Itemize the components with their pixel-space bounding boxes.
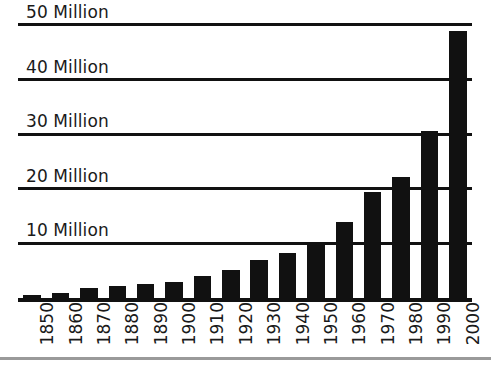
x-axis-tick-label: 1970 [380, 302, 397, 354]
x-axis-tick-label: 1850 [39, 302, 56, 354]
bar [194, 276, 212, 298]
y-axis-tick-label: 30 Million [26, 112, 109, 131]
x-axis-tick-label: 1950 [323, 302, 340, 354]
bar [279, 253, 297, 298]
x-axis-tick-labels: 1850186018701880189019001910192019301940… [18, 302, 472, 354]
plot-area: 10 Million20 Million30 Million40 Million… [18, 14, 472, 302]
y-axis-tick-label: 20 Million [26, 167, 109, 186]
y-axis-tick-label: 10 Million [26, 221, 109, 240]
x-axis-tick-label: 1930 [266, 302, 283, 354]
y-axis-tick-label: 40 Million [26, 58, 109, 77]
bar [109, 286, 127, 298]
bar [250, 260, 268, 298]
bar [307, 243, 325, 298]
bar [336, 222, 354, 298]
y-axis-tick-label: 50 Million [26, 3, 109, 22]
x-axis-tick-label: 1860 [68, 302, 85, 354]
x-axis-tick-label: 1920 [238, 302, 255, 354]
bar [222, 270, 240, 298]
x-axis-tick-label: 1990 [436, 302, 453, 354]
x-axis-tick-label: 2000 [465, 302, 482, 354]
bar [137, 284, 155, 298]
x-axis-tick-label: 1940 [295, 302, 312, 354]
bar [449, 31, 467, 298]
bottom-divider [0, 357, 491, 360]
bar [421, 131, 439, 298]
x-axis-tick-label: 1980 [408, 302, 425, 354]
x-axis-tick-label: 1900 [181, 302, 198, 354]
bar [165, 282, 183, 298]
x-axis-tick-label: 1910 [209, 302, 226, 354]
x-axis-tick-label: 1960 [351, 302, 368, 354]
bar [80, 288, 98, 298]
bar [364, 192, 382, 299]
x-axis-tick-label: 1880 [124, 302, 141, 354]
bar-chart: 10 Million20 Million30 Million40 Million… [0, 0, 491, 368]
bar [392, 177, 410, 298]
x-axis-tick-label: 1870 [96, 302, 113, 354]
x-axis-tick-label: 1890 [153, 302, 170, 354]
